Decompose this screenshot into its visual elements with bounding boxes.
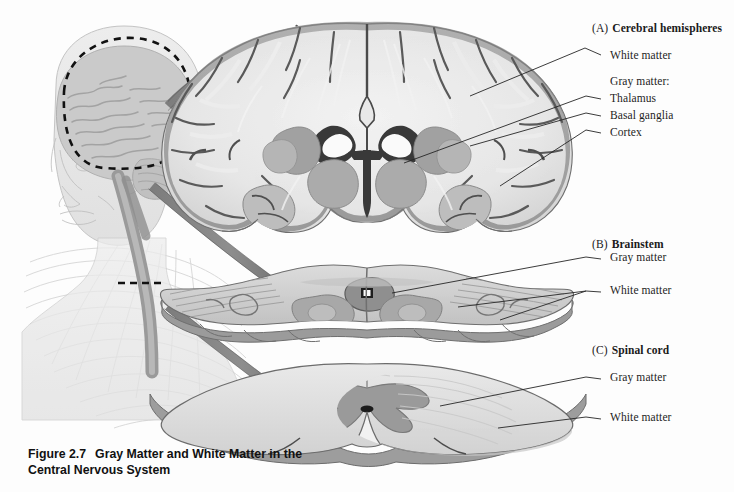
label-thalamus: Thalamus: [610, 92, 656, 104]
figure-gray-white-matter: (A)Cerebral hemispheres White matter Gra…: [0, 0, 734, 492]
label-basal-ganglia: Basal ganglia: [610, 109, 674, 121]
panel-b-letter: (B): [592, 238, 608, 250]
panel-a-cerebral-section: [162, 23, 573, 232]
label-white-matter-a: White matter: [610, 49, 672, 61]
label-cortex: Cortex: [610, 126, 642, 138]
label-white-matter-c: White matter: [610, 411, 672, 423]
label-white-matter-b: White matter: [610, 284, 672, 296]
figure-caption: Figure 2.7Gray Matter and White Matter i…: [28, 447, 318, 478]
figure-number: Figure 2.7: [28, 447, 86, 461]
panel-b-brainstem-section: [161, 265, 574, 342]
label-gray-matter-b: Gray matter: [610, 251, 666, 263]
panel-b-heading: (B)Brainstem: [592, 238, 664, 250]
panel-c-letter: (C): [592, 344, 608, 356]
panel-a-title: Cerebral hemispheres: [612, 22, 722, 34]
panel-c-title: Spinal cord: [612, 344, 670, 356]
panel-a-heading: (A)Cerebral hemispheres: [592, 22, 722, 34]
panel-b-title: Brainstem: [612, 238, 664, 250]
panel-c-heading: (C)Spinal cord: [592, 344, 669, 356]
panel-a-letter: (A): [592, 22, 608, 34]
label-gray-matter-c: Gray matter: [610, 371, 666, 383]
label-gray-matter-a: Gray matter:: [610, 75, 670, 87]
figure-caption-line1: Gray Matter and White Matter in: [95, 447, 280, 461]
